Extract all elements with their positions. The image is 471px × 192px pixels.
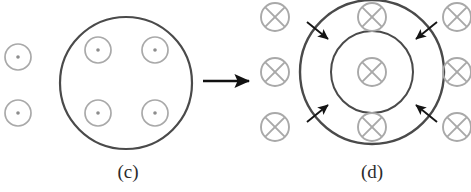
field-out-of-page-icon: [85, 37, 111, 63]
field-into-page-icon: [443, 58, 471, 86]
field-into-page-icon: [261, 3, 289, 31]
panel-c-outside-field-symbols: [5, 44, 31, 126]
field-into-page-icon: [261, 58, 289, 86]
figure-container: (c) (d): [0, 0, 471, 192]
field-into-page-icon: [358, 3, 386, 31]
panel-c-inside-field-symbols: [85, 37, 168, 126]
field-into-page-icon: [443, 113, 471, 141]
panel-c-caption: (c): [96, 162, 160, 181]
panel-d: [261, 0, 471, 144]
field-out-of-page-icon: [142, 100, 168, 126]
field-out-of-page-icon: [85, 100, 111, 126]
field-into-page-icon: [358, 113, 386, 141]
panel-d-caption: (d): [340, 162, 404, 181]
panel-c: [5, 17, 192, 149]
field-out-of-page-icon: [5, 100, 31, 126]
panel-d-inside-field-symbols: [358, 3, 386, 141]
panel-c-main-loop: [60, 17, 192, 149]
field-out-of-page-icon: [5, 44, 31, 70]
field-into-page-icon: [261, 113, 289, 141]
field-out-of-page-icon: [142, 37, 168, 63]
field-into-page-icon: [443, 3, 471, 31]
field-into-page-icon: [358, 58, 386, 86]
